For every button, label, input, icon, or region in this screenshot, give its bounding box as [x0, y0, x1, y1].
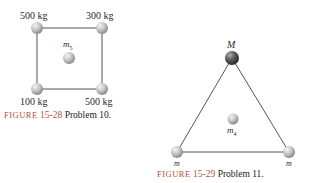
square-diagram: [31, 22, 108, 95]
caption-figure-number: 15-28: [40, 110, 62, 120]
label-center-m4: m4: [227, 126, 237, 137]
caption-problem: Problem 11.: [218, 169, 264, 179]
sphere-top-right: [96, 22, 108, 34]
label-center-m5: m5: [63, 40, 73, 51]
sphere-center-m4: [228, 114, 239, 125]
label-top-right-mass: 300 kg: [86, 11, 114, 21]
sphere-bottom-left-m: [171, 146, 183, 158]
triangle-diagram: [171, 51, 295, 158]
sphere-center-m5: [63, 52, 75, 64]
sphere-bottom-left: [31, 83, 43, 95]
caption-figure-15-28: FIGURE 15-28 Problem 10.: [4, 111, 111, 121]
sphere-top-left: [31, 22, 43, 34]
label-bottom-left-m: m: [174, 160, 180, 168]
figures-canvas: [0, 0, 310, 183]
sphere-top-M: [225, 51, 239, 65]
caption-figure-label: FIGURE: [4, 110, 38, 120]
label-bottom-left-mass: 100 kg: [20, 97, 48, 107]
sphere-bottom-right-m: [283, 146, 295, 158]
caption-figure-number: 15-29: [193, 169, 215, 179]
label-top-M: M: [227, 40, 235, 50]
sphere-bottom-right: [96, 83, 108, 95]
label-top-left-mass: 500 kg: [20, 11, 48, 21]
label-bottom-right-m: m: [286, 160, 292, 168]
caption-figure-15-29: FIGURE 15-29 Problem 11.: [157, 170, 264, 180]
caption-figure-label: FIGURE: [157, 169, 191, 179]
caption-problem: Problem 10.: [65, 110, 111, 120]
label-bottom-right-mass: 500 kg: [85, 97, 113, 107]
